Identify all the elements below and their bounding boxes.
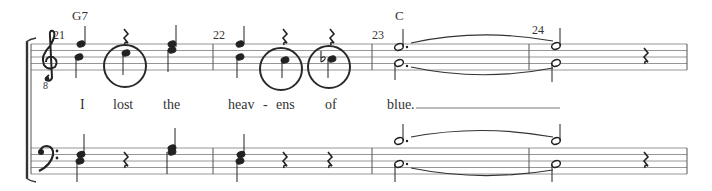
measure-number: 21 (53, 29, 65, 41)
dot (406, 65, 408, 67)
chord-symbol: G7 (72, 9, 88, 22)
bass-staff (31, 148, 687, 174)
circle-annotation-2 (260, 48, 302, 90)
lyric-syllable: I (80, 98, 85, 112)
lyric-syllable: of (325, 98, 337, 112)
lyric-syllable: ens (276, 98, 295, 112)
measure-number: 24 (532, 24, 544, 36)
bass-half-notes (394, 124, 562, 182)
lyric-syllable: blue. (387, 98, 415, 112)
dot (406, 46, 408, 48)
tie-bass-upper (411, 131, 553, 138)
tie-lower (411, 67, 553, 75)
measure-number: 22 (213, 29, 225, 41)
measure-number: 23 (372, 29, 384, 41)
m23-treble-notes (394, 29, 405, 80)
quarter-rest-icon (330, 29, 334, 45)
lyric-syllable: lost (113, 98, 133, 112)
treble-staff (31, 44, 687, 70)
lyric-syllable: heav (228, 98, 254, 112)
flat-icon (321, 51, 325, 62)
dot (406, 163, 408, 165)
lyric-hyphen: - (263, 98, 268, 112)
dot (406, 140, 408, 142)
m24-treble-notes (551, 28, 562, 82)
octave-marker: 8 (43, 81, 48, 91)
quarter-rest-icon (283, 29, 287, 45)
annotation-circles (104, 45, 350, 90)
quarter-rest-icon (124, 29, 128, 45)
score-canvas (0, 0, 712, 191)
circle-annotation-3 (308, 46, 350, 88)
chord-symbol: C (395, 9, 404, 22)
lyric-syllable: the (163, 98, 180, 112)
